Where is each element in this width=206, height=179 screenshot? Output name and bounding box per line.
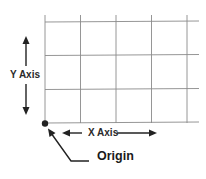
origin-point — [42, 120, 48, 126]
arrow-pointer-icon — [48, 129, 56, 138]
arrow-right-icon — [149, 130, 157, 137]
arrow-down-icon — [23, 107, 30, 115]
y-axis-label: Y Axis — [10, 70, 40, 80]
grid-line-horizontal — [45, 21, 199, 22]
grid-line-horizontal — [45, 122, 199, 123]
origin-leader-line — [51, 133, 89, 161]
grid-line-horizontal — [45, 55, 199, 56]
grid-line-horizontal — [45, 89, 199, 90]
x-axis-label: X Axis — [88, 128, 118, 138]
grid — [45, 15, 199, 123]
origin-label: Origin — [97, 150, 134, 163]
arrow-up-icon — [23, 36, 30, 44]
